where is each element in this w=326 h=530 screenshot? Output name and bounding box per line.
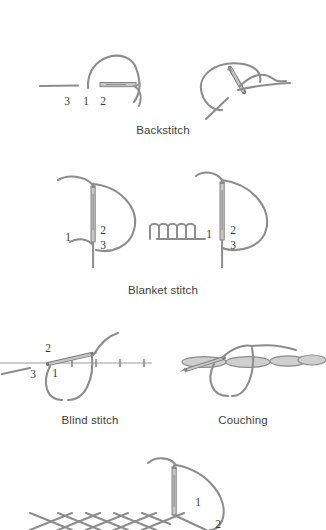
- couch-loop-right: [232, 348, 253, 396]
- loop-cap: [177, 224, 186, 226]
- thread-loop-right: [243, 64, 260, 82]
- cropped-heading-text: [0, 0, 326, 1]
- loop-cap: [150, 224, 159, 226]
- binding-thread-right: [252, 345, 296, 350]
- needle: [48, 352, 98, 364]
- thread-loop: [222, 180, 267, 250]
- needle: [172, 463, 177, 515]
- figure-blind-stitch-and-couching: 2 1 3: [0, 330, 326, 400]
- blanket-left-panel: 1 2 3: [58, 177, 135, 268]
- thread-tail: [2, 368, 30, 374]
- caption-blind-stitch: Blind stitch: [10, 414, 170, 426]
- number-1: 1: [65, 231, 71, 243]
- caption-blanket-stitch: Blanket stitch: [0, 284, 326, 296]
- number-3: 3: [230, 239, 236, 251]
- caption-couching: Couching: [170, 414, 316, 426]
- caption-backstitch: Backstitch: [0, 124, 326, 136]
- figure-blanket-stitch: 1 2 3: [0, 168, 326, 273]
- blind-stitch-panel: 2 1 3: [0, 333, 152, 400]
- loop-left-tail: [70, 239, 92, 244]
- thread-loop: [92, 184, 135, 251]
- couching-panel: [180, 345, 326, 396]
- number-1: 1: [206, 228, 212, 240]
- working-stitch-line: [174, 515, 206, 530]
- number-2: 2: [230, 224, 236, 236]
- stitch-diagram-page: 3 1 2 Backstitch: [0, 0, 326, 530]
- stitch-line-right: [238, 83, 290, 90]
- needle: [220, 178, 225, 240]
- number-2: 2: [100, 95, 106, 107]
- laid-thread-segment: [226, 357, 270, 368]
- thread-tail: [206, 98, 228, 119]
- number-3: 3: [64, 95, 70, 107]
- incoming-thread: [58, 177, 92, 184]
- number-1: 1: [52, 367, 58, 379]
- laid-thread-segment: [298, 355, 326, 365]
- loop-cap: [159, 224, 168, 226]
- thread-over-needle: [94, 333, 118, 354]
- number-2: 2: [45, 342, 51, 354]
- incoming-thread: [196, 173, 222, 180]
- backstitch-right-panel: [201, 63, 290, 119]
- couch-loop-left: [210, 364, 228, 396]
- blanket-right-panel: 1 2 3: [150, 173, 267, 268]
- figure-backstitch: 3 1 2: [0, 24, 326, 119]
- loop-cap: [186, 224, 195, 226]
- number-3: 3: [100, 239, 106, 251]
- number-2: 2: [215, 518, 221, 530]
- needle: [91, 182, 96, 242]
- incoming-thread: [148, 458, 176, 465]
- needle-shaft-highlight: [231, 69, 243, 91]
- lattice-line: [142, 513, 170, 524]
- lattice-stitches: [30, 513, 184, 530]
- needle: [227, 66, 244, 92]
- figure-cross-stitch-partial: 1 2: [0, 455, 326, 530]
- number-3: 3: [30, 368, 36, 380]
- number-2: 2: [100, 224, 106, 236]
- number-1: 1: [195, 496, 201, 508]
- completed-stitch-line: [40, 86, 78, 87]
- loop-cap: [168, 224, 177, 226]
- number-1: 1: [83, 95, 89, 107]
- backstitch-left-panel: 3 1 2: [40, 56, 142, 107]
- needle-shaft-highlight: [50, 355, 90, 364]
- thread-loop: [88, 56, 140, 102]
